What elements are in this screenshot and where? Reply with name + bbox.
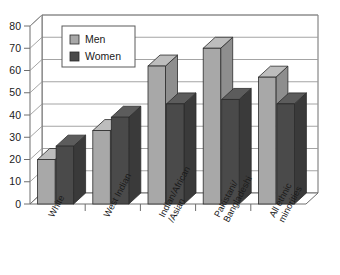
y-tick-label: 70 — [9, 42, 21, 54]
y-tick-label: 20 — [9, 153, 21, 165]
y-tick-label: 30 — [9, 131, 21, 143]
y-tick-label: 40 — [9, 109, 21, 121]
legend-swatch-men — [70, 35, 79, 44]
y-tick-label: 10 — [9, 175, 21, 187]
y-axis-ticks: 01020304050607080 — [9, 20, 30, 210]
y-tick-label: 80 — [9, 20, 21, 32]
bar-side-face — [129, 106, 141, 204]
bar-side-face — [74, 135, 86, 204]
bar-front-face — [38, 160, 56, 205]
legend-label-men: Men — [85, 33, 106, 45]
bar-side-face — [184, 93, 196, 204]
bar-front-face — [203, 48, 221, 204]
bar-women-0 — [56, 135, 86, 204]
y-tick-label: 0 — [15, 198, 21, 210]
y-tick-label: 50 — [9, 86, 21, 98]
bar-front-face — [93, 131, 111, 204]
bar-front-face — [148, 66, 166, 204]
chart-canvas: 01020304050607080 WhiteWest IndianIndian… — [0, 0, 340, 275]
y-tick-label: 60 — [9, 64, 21, 76]
legend-label-women: Women — [85, 50, 121, 62]
legend-swatch-women — [70, 52, 79, 61]
bar-chart-figure: 01020304050607080 WhiteWest IndianIndian… — [0, 0, 340, 275]
bar-front-face — [258, 77, 276, 204]
chart-legend: MenWomen — [62, 26, 135, 67]
